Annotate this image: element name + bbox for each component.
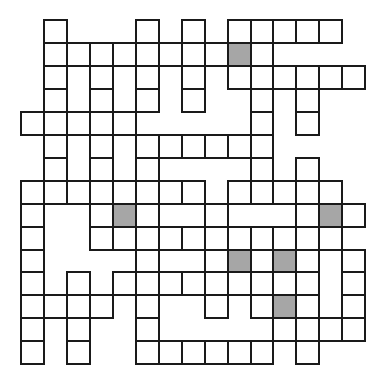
grid-cell[interactable] [318, 19, 343, 44]
grid-cell[interactable] [43, 19, 68, 44]
grid-cell[interactable] [181, 271, 206, 296]
grid-cell[interactable] [158, 340, 183, 365]
grid-cell[interactable] [227, 271, 252, 296]
grid-cell[interactable] [66, 317, 91, 342]
grid-cell[interactable] [250, 134, 274, 159]
grid-cell[interactable] [181, 340, 206, 365]
grid-cell[interactable] [89, 65, 114, 90]
grid-cell[interactable] [66, 180, 91, 205]
grid-cell[interactable] [135, 157, 160, 182]
grid-cell[interactable] [43, 134, 68, 159]
grid-cell[interactable] [66, 294, 91, 319]
grid-cell[interactable] [227, 65, 252, 90]
grid-cell[interactable] [295, 111, 320, 136]
grid-cell[interactable] [227, 340, 252, 365]
grid-cell[interactable] [112, 42, 137, 67]
grid-cell[interactable] [318, 317, 343, 342]
grid-cell[interactable] [158, 180, 183, 205]
grid-cell[interactable] [250, 111, 274, 136]
grid-cell[interactable] [272, 226, 297, 251]
grid-cell[interactable] [341, 317, 366, 342]
grid-cell[interactable] [272, 271, 297, 296]
grid-cell[interactable] [89, 180, 114, 205]
grid-cell[interactable] [227, 134, 252, 159]
grid-cell[interactable] [250, 271, 274, 296]
grid-cell[interactable] [89, 111, 114, 136]
grid-cell[interactable] [295, 294, 320, 319]
grid-cell[interactable] [204, 203, 229, 228]
grid-cell[interactable] [295, 157, 320, 182]
grid-cell[interactable] [43, 65, 68, 90]
grid-cell[interactable] [204, 294, 229, 319]
grid-cell[interactable] [181, 19, 206, 44]
grid-cell[interactable] [295, 65, 320, 90]
grid-cell[interactable] [250, 42, 274, 67]
grid-cell[interactable] [272, 19, 297, 44]
grid-cell[interactable] [135, 340, 160, 365]
grid-cell[interactable] [112, 226, 137, 251]
grid-cell[interactable] [295, 271, 320, 296]
grid-cell[interactable] [318, 65, 343, 90]
grid-cell[interactable] [20, 340, 45, 365]
grid-cell[interactable] [204, 271, 229, 296]
grid-cell[interactable] [250, 180, 274, 205]
grid-cell[interactable] [250, 294, 274, 319]
grid-cell[interactable] [135, 134, 160, 159]
grid-cell[interactable] [181, 42, 206, 67]
grid-cell[interactable] [66, 340, 91, 365]
grid-cell[interactable] [295, 226, 320, 251]
grid-cell[interactable] [112, 180, 137, 205]
grid-cell[interactable] [204, 249, 229, 273]
grid-cell[interactable] [135, 180, 160, 205]
grid-cell[interactable] [181, 65, 206, 90]
grid-cell[interactable] [66, 271, 91, 296]
grid-cell[interactable] [204, 42, 229, 67]
grid-cell[interactable] [250, 340, 274, 365]
grid-cell[interactable] [158, 271, 183, 296]
grid-cell[interactable] [272, 180, 297, 205]
grid-cell[interactable] [89, 134, 114, 159]
grid-cell[interactable] [66, 111, 91, 136]
grid-cell[interactable] [295, 180, 320, 205]
grid-cell[interactable] [341, 271, 366, 296]
grid-cell[interactable] [20, 317, 45, 342]
grid-cell[interactable] [318, 226, 343, 251]
grid-cell[interactable] [20, 294, 45, 319]
grid-cell[interactable] [135, 317, 160, 342]
grid-cell[interactable] [89, 157, 114, 182]
grid-cell[interactable] [43, 42, 68, 67]
grid-cell[interactable] [43, 111, 68, 136]
grid-cell[interactable] [250, 249, 274, 273]
grid-cell[interactable] [158, 134, 183, 159]
grid-cell[interactable] [295, 340, 320, 365]
grid-cell[interactable] [135, 271, 160, 296]
grid-cell[interactable] [181, 88, 206, 113]
grid-cell[interactable] [20, 226, 45, 251]
grid-cell[interactable] [341, 249, 366, 273]
grid-cell[interactable] [318, 180, 343, 205]
grid-cell[interactable] [66, 42, 91, 67]
grid-cell[interactable] [250, 19, 274, 44]
grid-cell[interactable] [20, 180, 45, 205]
grid-cell[interactable] [89, 203, 114, 228]
grid-cell[interactable] [227, 180, 252, 205]
grid-cell[interactable] [20, 249, 45, 273]
grid-cell[interactable] [20, 203, 45, 228]
grid-cell[interactable] [89, 88, 114, 113]
grid-cell[interactable] [158, 42, 183, 67]
grid-cell[interactable] [20, 271, 45, 296]
grid-cell[interactable] [112, 111, 137, 136]
grid-cell[interactable] [227, 19, 252, 44]
grid-cell[interactable] [158, 226, 183, 251]
grid-cell[interactable] [181, 134, 206, 159]
grid-cell[interactable] [43, 157, 68, 182]
grid-cell[interactable] [204, 134, 229, 159]
grid-cell[interactable] [295, 88, 320, 113]
grid-cell[interactable] [295, 19, 320, 44]
grid-cell[interactable] [181, 226, 206, 251]
grid-cell[interactable] [204, 340, 229, 365]
grid-cell[interactable] [135, 19, 160, 44]
grid-cell[interactable] [250, 88, 274, 113]
grid-cell[interactable] [341, 203, 366, 228]
grid-cell[interactable] [272, 317, 297, 342]
